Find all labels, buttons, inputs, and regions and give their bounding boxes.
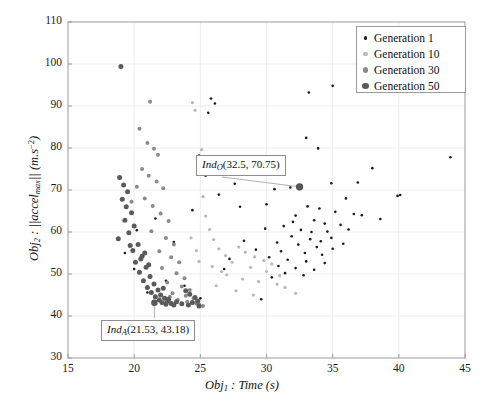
x-tick-label: 40 bbox=[379, 362, 419, 374]
annotation-ind-a: IndA(21.53, 43.18) bbox=[101, 320, 195, 341]
x-tick-label: 45 bbox=[445, 362, 484, 374]
legend-label: Generation 1 bbox=[374, 32, 434, 44]
legend-item-generation-30[interactable]: Generation 30 bbox=[362, 62, 439, 78]
y-tick-label: 80 bbox=[24, 140, 62, 152]
y-axis-label: Obj2 : ||accelmax|| (m.s−2) bbox=[26, 78, 43, 318]
y-tick-label: 30 bbox=[24, 350, 62, 362]
x-tick-label: 15 bbox=[48, 362, 88, 374]
x-axis-label: Obj1 : Time (s) bbox=[0, 378, 484, 393]
annotation-ind-o: IndO(32.5, 70.75) bbox=[196, 155, 286, 176]
y-tick-label: 70 bbox=[24, 182, 62, 194]
legend-marker-icon bbox=[362, 36, 374, 40]
y-tick-label: 90 bbox=[24, 98, 62, 110]
y-tick-label: 40 bbox=[24, 308, 62, 320]
legend-item-generation-10[interactable]: Generation 10 bbox=[362, 46, 439, 62]
legend: Generation 1 Generation 10 Generation 30… bbox=[356, 26, 466, 93]
legend-label: Generation 30 bbox=[374, 64, 439, 76]
x-tick-label: 25 bbox=[180, 362, 220, 374]
x-tick-label: 30 bbox=[247, 362, 287, 374]
y-tick-label: 100 bbox=[24, 56, 62, 68]
y-tick-label: 110 bbox=[24, 14, 62, 26]
legend-marker-icon bbox=[362, 67, 374, 72]
legend-marker-icon bbox=[362, 83, 374, 90]
x-tick-label: 35 bbox=[313, 362, 353, 374]
legend-label: Generation 50 bbox=[374, 80, 439, 92]
x-tick-label: 20 bbox=[114, 362, 154, 374]
y-tick-label: 50 bbox=[24, 266, 62, 278]
legend-marker-icon bbox=[362, 52, 374, 56]
legend-item-generation-50[interactable]: Generation 50 bbox=[362, 78, 439, 94]
legend-label: Generation 10 bbox=[374, 48, 439, 60]
y-tick-label: 60 bbox=[24, 224, 62, 236]
legend-item-generation-1[interactable]: Generation 1 bbox=[362, 30, 434, 46]
